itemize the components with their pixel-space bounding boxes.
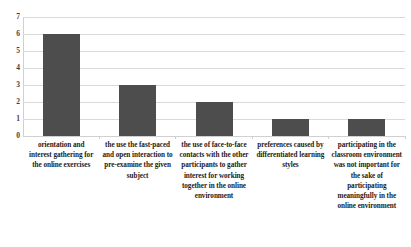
x-axis-category-labels: orientation and interest gathering for t… xyxy=(23,140,405,247)
y-tick-label: 4 xyxy=(4,64,20,72)
category-label: the use of face-to-face contacts with th… xyxy=(179,140,249,201)
y-tick-label: 1 xyxy=(4,115,20,123)
x-tick xyxy=(252,136,253,139)
x-tick xyxy=(328,136,329,139)
bar xyxy=(348,119,385,136)
y-tick-label: 2 xyxy=(4,98,20,106)
x-tick xyxy=(405,136,406,139)
y-tick-label: 5 xyxy=(4,47,20,55)
y-axis-tick-labels: 01234567 xyxy=(0,17,20,136)
y-tick-label: 0 xyxy=(4,132,20,140)
bar xyxy=(272,119,309,136)
gridline xyxy=(23,136,405,137)
x-tick xyxy=(175,136,176,139)
gridline xyxy=(23,17,405,18)
gridline xyxy=(23,34,405,35)
y-tick-label: 7 xyxy=(4,13,20,21)
gridline xyxy=(23,51,405,52)
bar xyxy=(43,34,80,136)
x-tick xyxy=(99,136,100,139)
bar xyxy=(119,85,156,136)
y-tick-label: 6 xyxy=(4,30,20,38)
category-label: preferences caused by differentiated lea… xyxy=(255,140,325,171)
plot-area xyxy=(23,17,405,136)
gridline xyxy=(23,85,405,86)
bar-chart-figure: 01234567 orientation and interest gather… xyxy=(0,0,411,247)
category-label: orientation and interest gathering for t… xyxy=(26,140,96,171)
category-label: the use the fast-paced and open interact… xyxy=(102,140,172,181)
bar xyxy=(196,102,233,136)
y-tick-label: 3 xyxy=(4,81,20,89)
category-label: participating in the classroom environme… xyxy=(332,140,402,212)
gridline xyxy=(23,68,405,69)
